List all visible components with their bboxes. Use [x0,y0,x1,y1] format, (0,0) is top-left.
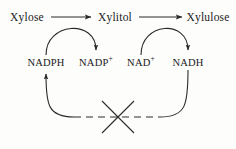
cofactor-label-nadh: NADH [172,57,203,68]
metabolite-label-xylulose: Xylulose [186,11,229,23]
cofactor-base-nad: NAD [127,57,150,68]
arc-nadph-to-nadp [46,28,96,55]
pathway-diagram-page: Xylose Xylitol Xylulose NADPH NADP+ NAD+… [0,0,236,149]
cofactor-charge-nadp: + [108,54,112,63]
recycle-path-left-segment [46,74,74,117]
cofactor-label-nadp-plus: NADP+ [79,57,113,68]
arc-nad-to-nadh [141,28,188,55]
cofactor-base-nadph: NADPH [27,57,64,68]
recycle-path-right-segment [160,70,188,117]
cofactor-base-nadh: NADH [172,57,203,68]
cofactor-charge-nad: + [150,54,154,63]
cofactor-label-nadph: NADPH [27,57,64,68]
metabolite-label-xylose: Xylose [10,11,44,23]
cofactor-base-nadp: NADP [79,57,108,68]
cofactor-label-nad-plus: NAD+ [127,57,155,68]
metabolite-label-xylitol: Xylitol [98,11,132,23]
